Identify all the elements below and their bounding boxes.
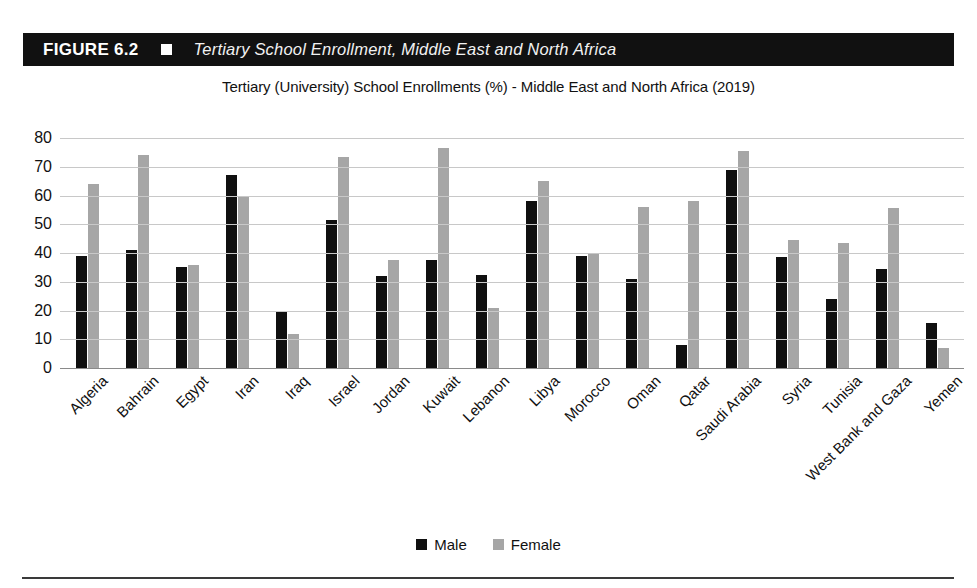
gridline [60,311,964,312]
bar-female [488,308,499,368]
legend-item-male[interactable]: Male [416,536,467,553]
y-axis: 01020304050607080 [14,138,58,374]
bar-male [726,170,737,368]
bar-male [126,250,137,368]
square-marker-icon [161,44,172,55]
x-axis-label: Oman [623,372,664,413]
gridline [60,339,964,340]
y-axis-tick-label: 60 [34,187,52,205]
bar-female [738,151,749,368]
x-axis-label: Syria [778,372,814,408]
x-axis-label: Egypt [172,372,211,411]
gridline [60,196,964,197]
gridline [60,167,964,168]
x-axis-label: Libya [526,372,563,409]
bar-male [826,299,837,368]
bar-male [526,201,537,368]
bar-male [876,269,887,368]
plot-area: 01020304050607080 [14,138,964,374]
bar-female [138,155,149,368]
bar-female [338,157,349,368]
bar-male [326,220,337,368]
x-axis-label: Lebanon [460,372,513,425]
x-axis-label: Israel [324,372,362,410]
gridline [60,224,964,225]
figure-container: FIGURE 6.2 Tertiary School Enrollment, M… [0,0,977,588]
bar-female [938,348,949,368]
bar-female [888,208,899,368]
x-axis-label: Yemen [920,372,965,417]
bar-female [438,148,449,368]
bar-male [676,345,687,368]
y-axis-tick-label: 80 [34,129,52,147]
y-axis-tick-label: 20 [34,302,52,320]
chart-title: Tertiary (University) School Enrollments… [0,78,977,95]
x-axis-label: Jordan [368,372,412,416]
x-axis-label: Qatar [675,372,714,411]
legend-item-female[interactable]: Female [493,536,561,553]
x-axis-labels: AlgeriaBahrainEgyptIranIraqIsraelJordanK… [60,372,964,492]
y-axis-tick-label: 40 [34,244,52,262]
figure-number: FIGURE 6.2 [43,40,139,60]
y-axis-tick-label: 50 [34,215,52,233]
bar-male [776,257,787,368]
bar-male [626,279,637,368]
x-axis-label: Iran [231,372,261,402]
x-axis-label: Algeria [66,372,111,417]
bar-female [688,201,699,368]
figure-title: Tertiary School Enrollment, Middle East … [194,40,617,59]
x-axis-label: Bahrain [113,372,162,421]
x-axis-label: Tunisia [819,372,865,418]
x-axis-label: Kuwait [419,372,463,416]
bar-male [76,256,87,368]
bar-female [838,243,849,368]
y-axis-tick-label: 0 [43,359,52,377]
x-axis-label: Iraq [282,372,312,402]
gridline [60,138,964,139]
bar-female [788,240,799,368]
y-axis-tick-label: 30 [34,273,52,291]
chart-legend: MaleFemale [0,536,977,553]
legend-swatch-icon [493,539,504,550]
bar-male [376,276,387,368]
bar-female [388,260,399,368]
x-axis-label: Morocco [561,372,614,425]
legend-swatch-icon [416,539,427,550]
bar-male [576,256,587,368]
legend-label: Female [511,536,561,553]
bar-male [426,260,437,368]
bar-male [926,323,937,368]
legend-label: Male [434,536,467,553]
figure-header-bar: FIGURE 6.2 Tertiary School Enrollment, M… [23,33,954,66]
y-axis-tick-label: 10 [34,330,52,348]
bar-male [476,275,487,368]
bar-female [188,265,199,369]
plot-canvas [60,138,964,369]
gridline [60,282,964,283]
figure-bottom-rule [22,577,954,579]
y-axis-tick-label: 70 [34,158,52,176]
bar-female [88,184,99,368]
gridline [60,253,964,254]
bar-female [638,207,649,368]
